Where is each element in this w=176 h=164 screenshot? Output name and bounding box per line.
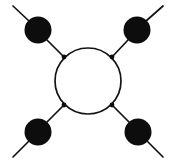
external-leg-bottom-right [147, 141, 163, 157]
junction-dot-bottom-left [62, 103, 67, 108]
internal-edge-top-left [47, 40, 64, 57]
vertex-blob-top-left [25, 17, 52, 44]
vertex-blob-bottom-right [125, 119, 152, 146]
junction-dot-bottom-right [110, 103, 115, 108]
internal-edge-bottom-left [47, 105, 64, 122]
internal-edge-top-right [112, 40, 128, 57]
vertex-blob-bottom-left [25, 119, 52, 146]
junction-dot-top-right [110, 55, 115, 60]
internal-edges-group [47, 40, 129, 122]
vertex-blobs-group [25, 17, 152, 146]
junction-dot-top-left [62, 55, 67, 60]
diagram-canvas [0, 0, 176, 164]
external-leg-top-left [13, 6, 29, 21]
vertex-blob-top-right [124, 17, 151, 44]
junction-dots-group [62, 55, 115, 108]
external-leg-bottom-left [13, 141, 29, 157]
internal-edge-bottom-right [112, 105, 129, 122]
feynman-loop-diagram [0, 0, 176, 164]
external-leg-top-right [146, 6, 163, 21]
